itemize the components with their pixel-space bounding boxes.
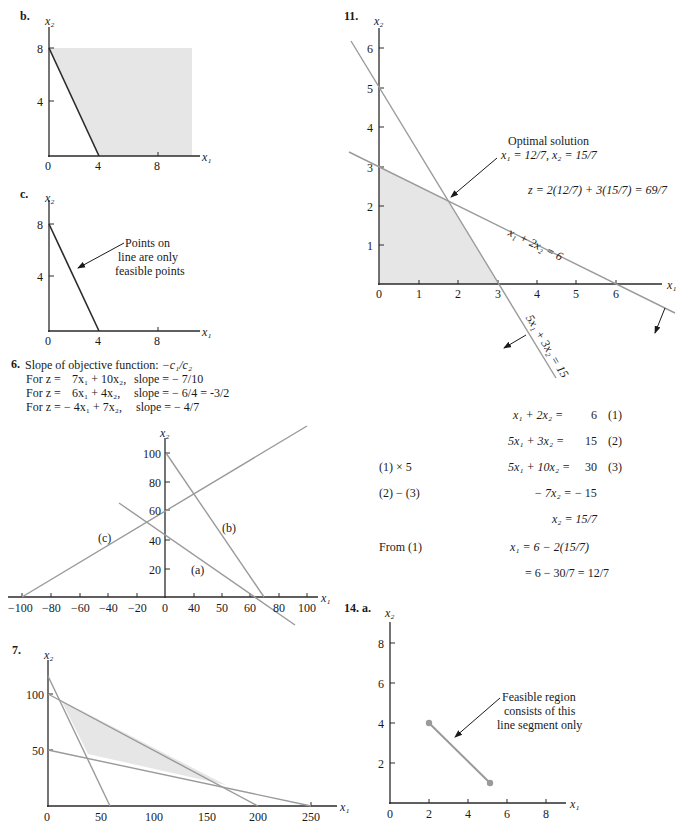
tick-label: 0	[44, 810, 50, 824]
row-lhs: For z =	[26, 386, 61, 400]
constraint-line-3	[48, 750, 311, 806]
figure-canvas	[0, 0, 690, 837]
objective-value: z = 2(12/7) + 3(15/7) = 69/7	[528, 183, 667, 197]
tick-label: 20	[149, 563, 161, 577]
constraint-line-2	[48, 694, 258, 806]
step-rhs: 6	[591, 408, 597, 423]
tick-label: 4	[37, 270, 43, 284]
step-rhs: 15	[585, 434, 597, 449]
step-eq: 5x₁ + 10x₂ =	[508, 460, 570, 475]
label-6: 6.	[11, 357, 20, 372]
chart-6	[8, 426, 318, 625]
tick-label: 2	[455, 287, 461, 301]
tick-label: 3	[367, 161, 373, 175]
label-c: c.	[20, 187, 28, 202]
tick-label: 4	[37, 95, 43, 109]
tick-label: 3	[495, 287, 501, 301]
tick-label: 200	[249, 810, 267, 824]
constraint-line	[49, 224, 99, 331]
row-expr: − 4x₁ + 7x₂,	[64, 400, 122, 414]
tick-label: 50	[95, 810, 107, 824]
row-expr: 7x₁ + 10x₂,	[72, 372, 126, 386]
feasible-region-shade	[61, 700, 226, 785]
axis-label-x2: x₂	[385, 606, 395, 620]
tick-label: 150	[198, 810, 216, 824]
direction-arrow-2	[655, 308, 665, 333]
row-slope: slope = − 6/4 = -3/2	[134, 386, 229, 400]
tick-label: 6	[367, 42, 373, 56]
row-slope: slope = − 4/7	[136, 400, 199, 414]
tick-label: 2	[426, 807, 432, 821]
line-b	[166, 453, 264, 597]
step-eq: = 6 − 30/7 = 12/7	[525, 566, 609, 581]
tick-label: 60	[244, 601, 256, 615]
tick-label: 40	[188, 601, 200, 615]
step-eq: x₁ = 6 − 2(15/7)	[510, 540, 589, 555]
step-operation: From (1)	[379, 540, 422, 555]
row-expr: 6x₁ + 4x₂,	[72, 386, 120, 400]
tick-label: 8	[37, 218, 43, 232]
tick-label: −100	[8, 601, 33, 615]
annotation-line: feasible points	[115, 264, 185, 278]
step-eq: x₂ = 15/7	[552, 512, 597, 527]
tick-label: 8	[543, 807, 549, 821]
tick-label: 40	[149, 534, 161, 548]
tick-label: 6	[613, 287, 619, 301]
series-label-a: (a)	[191, 563, 204, 577]
direction-arrow-1	[504, 335, 526, 348]
label-11: 11.	[344, 9, 358, 24]
tick-label: 5	[367, 82, 373, 96]
step-eq: x₁ + 2x₂ =	[513, 408, 563, 423]
tick-label: −20	[128, 601, 147, 615]
annotation-line: Points on	[125, 236, 170, 250]
tick-label: 4	[367, 121, 373, 135]
row-slope: slope = − 7/10	[134, 372, 203, 386]
tick-label: 0	[45, 334, 51, 348]
tick-label: 4	[95, 334, 101, 348]
tick-label: 0	[387, 807, 393, 821]
annotation-line: line segment only	[497, 718, 582, 732]
label-14a: 14. a.	[344, 601, 371, 616]
step-tag: (1)	[608, 408, 622, 423]
label-b: b.	[20, 9, 30, 24]
tick-label: 2	[367, 200, 373, 214]
tick-label: 4	[465, 807, 471, 821]
tick-label: 6	[504, 807, 510, 821]
tick-label: 1	[367, 239, 373, 253]
annotation-line: consists of this	[504, 704, 575, 718]
row-lhs: For z =	[26, 400, 61, 414]
tick-label: 50	[216, 601, 228, 615]
tick-label: 6	[378, 677, 384, 691]
optimal-annotation-title: Optimal solution	[508, 134, 589, 148]
tick-label: 100	[298, 601, 316, 615]
axis-label-x2: x₂	[44, 648, 54, 662]
tick-label: 4	[95, 159, 101, 173]
chart-b	[48, 27, 200, 157]
tick-label: 50	[32, 744, 44, 758]
axis-label-x1: x₁	[321, 591, 331, 605]
tick-label: 8	[154, 334, 160, 348]
tick-label: 100	[143, 447, 161, 461]
heading-text: Slope of objective function:	[25, 358, 159, 372]
axis-label-x1: x₁	[202, 325, 212, 339]
row-lhs: For z =	[26, 372, 61, 386]
annotation-arrow	[455, 698, 500, 737]
tick-label: 2	[378, 757, 384, 771]
step-rhs: − 15	[575, 486, 597, 501]
tick-label: 0	[376, 287, 382, 301]
tick-label: −60	[71, 601, 90, 615]
step-operation: (1) × 5	[379, 460, 412, 475]
axis-label-x2: x₂	[45, 191, 55, 205]
tick-label: 250	[302, 810, 320, 824]
tick-label: 60	[149, 504, 161, 518]
tick-label: 100	[145, 810, 163, 824]
axis-label-x1: x₁	[570, 797, 580, 811]
axis-label-x1: x₁	[202, 150, 212, 164]
chart-11	[349, 28, 675, 378]
optimal-annotation-values: x₁ = 12/7, x₂ = 15/7	[501, 148, 597, 162]
tick-label: 0	[45, 159, 51, 173]
annotation-line: Feasible region	[502, 690, 576, 704]
step-rhs: 30	[585, 460, 597, 475]
tick-label: 8	[378, 637, 384, 651]
annotation-line: line are only	[118, 250, 178, 264]
